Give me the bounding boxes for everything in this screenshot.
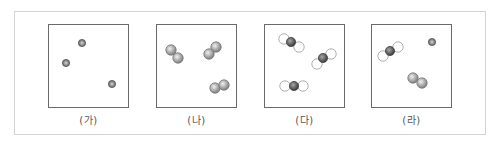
outer-atom [280,81,290,91]
diatomic-atom [173,53,183,63]
center-atom [289,81,298,90]
center-atom [385,46,394,55]
single-atom [108,80,115,87]
diatomic-atom [417,78,427,88]
single-atom [78,39,85,46]
particle-layer [0,0,499,144]
diatomic-atom [204,49,214,59]
single-atom [428,38,435,45]
diatomic-atom [219,80,229,90]
single-atom [62,59,69,66]
center-atom [318,53,327,62]
center-atom [286,37,295,46]
outer-atom [298,81,308,91]
